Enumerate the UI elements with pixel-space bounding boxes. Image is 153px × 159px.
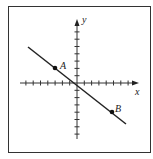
- point-a-label: A: [60, 61, 66, 71]
- y-axis-label: y: [82, 15, 86, 25]
- coordinate-plane: [0, 0, 153, 159]
- x-axis-arrow-icon: [132, 81, 139, 86]
- point-b: [110, 110, 115, 115]
- y-axis-arrow-icon: [75, 19, 80, 26]
- point-b-label: B: [115, 104, 121, 114]
- x-axis-label: x: [135, 87, 139, 97]
- point-a: [53, 66, 58, 71]
